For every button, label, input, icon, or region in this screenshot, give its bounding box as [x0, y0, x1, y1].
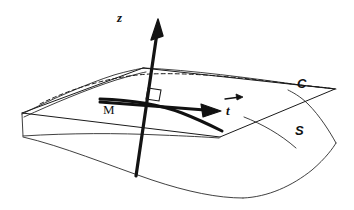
- curve-C-path: [40, 74, 334, 104]
- surface-edge-front-left: [23, 134, 219, 138]
- surface-edge-back-left-inner: [24, 72, 146, 117]
- math-figure-tangent-plane: z M t C S: [0, 0, 354, 210]
- label-point-m: M: [103, 102, 115, 118]
- surface-silhouette-right: [244, 117, 296, 148]
- surface-corner-left: [22, 114, 23, 136]
- tangent-plane-edge-back-left: [22, 68, 143, 113]
- saddle-surface: [22, 68, 336, 198]
- label-z-axis: z: [117, 10, 122, 26]
- surface-curve-dashed: [40, 74, 334, 104]
- vector-hat-arrow-icon: [225, 94, 243, 100]
- surface-edge-front-sheet-left: [23, 137, 243, 198]
- tangent-vector-arrowhead: [201, 104, 221, 117]
- label-tangent-vector: t: [226, 103, 230, 119]
- z-axis-arrowhead: [151, 19, 163, 40]
- tangent-plane: [22, 68, 335, 137]
- vertical-normal-axis: [136, 19, 163, 176]
- label-curve-c: C: [297, 76, 306, 91]
- label-surface-s: S: [295, 123, 304, 138]
- tangent-vector-arrow: [100, 102, 221, 117]
- figure-canvas: [0, 0, 354, 210]
- vector-hat-head: [236, 94, 243, 100]
- surface-edge-front-sheet-right: [243, 143, 336, 198]
